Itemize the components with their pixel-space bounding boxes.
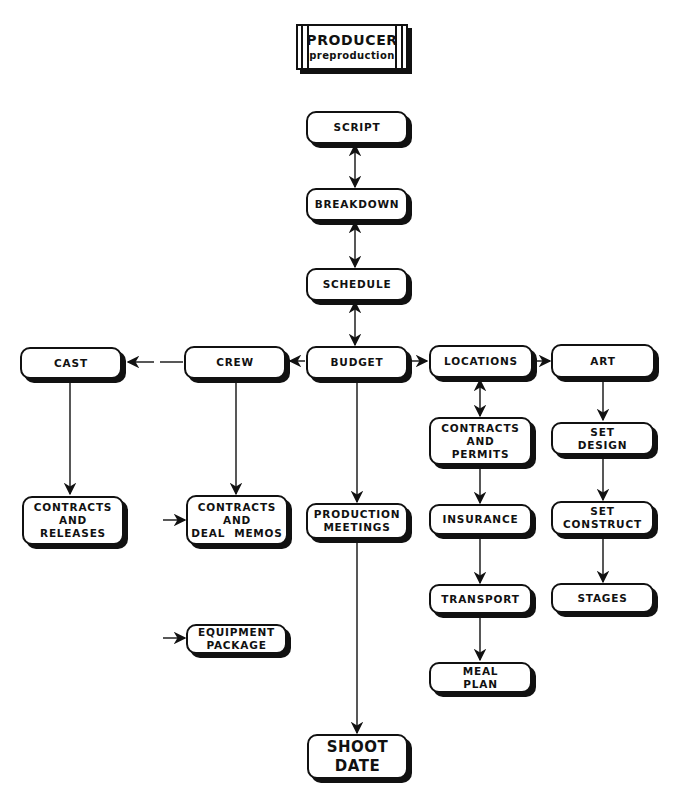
node-label: TRANSPORT xyxy=(441,593,519,606)
node-art: ART xyxy=(551,344,655,378)
node-label-line: SET xyxy=(590,426,614,439)
node-script: SCRIPT xyxy=(306,111,408,144)
node-label-line: CONTRACTS xyxy=(441,422,519,435)
node-label-line: CONTRACTS xyxy=(198,501,276,514)
node-cast: CAST xyxy=(20,347,122,379)
node-label: BREAKDOWN xyxy=(315,198,400,211)
node-schedule: SCHEDULE xyxy=(306,268,408,301)
node-label: ART xyxy=(590,355,615,368)
node-label: BUDGET xyxy=(331,356,384,369)
node-label: INSURANCE xyxy=(443,513,519,526)
node-stages: STAGES xyxy=(551,583,654,613)
node-production-meetings: PRODUCTION MEETINGS xyxy=(306,503,408,539)
producer-preproduction-title: PRODUCER preproduction xyxy=(296,24,408,70)
node-label-line: EQUIPMENT xyxy=(198,626,275,639)
node-label: SCRIPT xyxy=(334,121,381,134)
node-set-design: SET DESIGN xyxy=(551,422,654,455)
title-sub: preproduction xyxy=(309,49,394,62)
node-label-line: RELEASES xyxy=(40,527,106,540)
node-label-line: PLAN xyxy=(463,678,498,691)
node-label-line: PRODUCTION xyxy=(314,508,400,521)
node-budget: BUDGET xyxy=(306,346,408,379)
node-label-line: MEETINGS xyxy=(323,521,390,534)
node-crew-contracts-deal-memos: CONTRACTS AND DEAL MEMOS xyxy=(186,495,288,545)
node-label-line: AND xyxy=(59,514,87,527)
node-label-line: PACKAGE xyxy=(206,639,266,652)
title-main: PRODUCER xyxy=(306,32,397,49)
node-locations: LOCATIONS xyxy=(429,345,533,378)
node-cast-contracts-releases: CONTRACTS AND RELEASES xyxy=(22,496,124,545)
node-label-line: AND xyxy=(223,514,251,527)
node-label: SCHEDULE xyxy=(323,278,392,291)
node-meal-plan: MEAL PLAN xyxy=(429,662,532,693)
node-label-line: CONTRACTS xyxy=(34,501,112,514)
node-label-line: CONSTRUCT xyxy=(563,518,642,531)
node-label-line: PERMITS xyxy=(452,448,510,461)
node-equipment-package: EQUIPMENT PACKAGE xyxy=(186,624,287,654)
node-transport: TRANSPORT xyxy=(429,584,532,614)
node-crew: CREW xyxy=(184,346,286,379)
node-shoot-date: SHOOT DATE xyxy=(307,734,408,779)
node-set-construct: SET CONSTRUCT xyxy=(551,501,654,535)
node-insurance: INSURANCE xyxy=(429,504,532,535)
node-label: CAST xyxy=(54,357,88,370)
node-label-line: AND xyxy=(466,435,494,448)
node-label: STAGES xyxy=(577,592,627,605)
node-label-line: SET xyxy=(590,505,614,518)
node-label-line: DATE xyxy=(335,757,380,776)
node-contracts-permits: CONTRACTS AND PERMITS xyxy=(429,417,532,465)
node-label-line: MEAL xyxy=(463,665,499,678)
node-label-line: SHOOT xyxy=(327,738,389,757)
node-label: LOCATIONS xyxy=(444,355,518,368)
node-label-line: DEAL MEMOS xyxy=(191,527,282,540)
node-label: CREW xyxy=(216,356,254,369)
node-breakdown: BREAKDOWN xyxy=(306,188,408,221)
preproduction-flowchart: PRODUCER preproduction SCRIPT BREAKDOWN … xyxy=(0,0,675,797)
node-label-line: DESIGN xyxy=(578,439,628,452)
